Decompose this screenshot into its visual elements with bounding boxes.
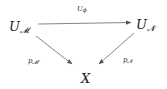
- label-p-n: p𝓝: [123, 57, 132, 65]
- node-u-n: U𝓝: [136, 16, 155, 33]
- node-u-n-base: U: [136, 17, 147, 32]
- label-u-phi: Uϕ: [77, 6, 87, 14]
- commutative-diagram: U𝓜 U𝓝 X Uϕ p𝓜 p𝓝: [0, 0, 167, 89]
- node-u-m: U𝓜: [9, 18, 29, 35]
- label-p-n-sub: 𝓝: [127, 58, 132, 64]
- arrow-top-u-phi: [38, 23, 131, 25]
- node-x: X: [81, 70, 90, 86]
- label-p-m-sub: 𝓜: [32, 59, 38, 65]
- label-p-m: p𝓜: [28, 58, 38, 66]
- node-u-n-sub: 𝓝: [147, 24, 155, 33]
- node-u-m-base: U: [9, 19, 20, 34]
- node-x-base: X: [81, 71, 90, 86]
- label-u-phi-sub: ϕ: [83, 7, 87, 13]
- node-u-m-sub: 𝓜: [20, 26, 29, 35]
- arrow-left-p-m: [36, 36, 72, 64]
